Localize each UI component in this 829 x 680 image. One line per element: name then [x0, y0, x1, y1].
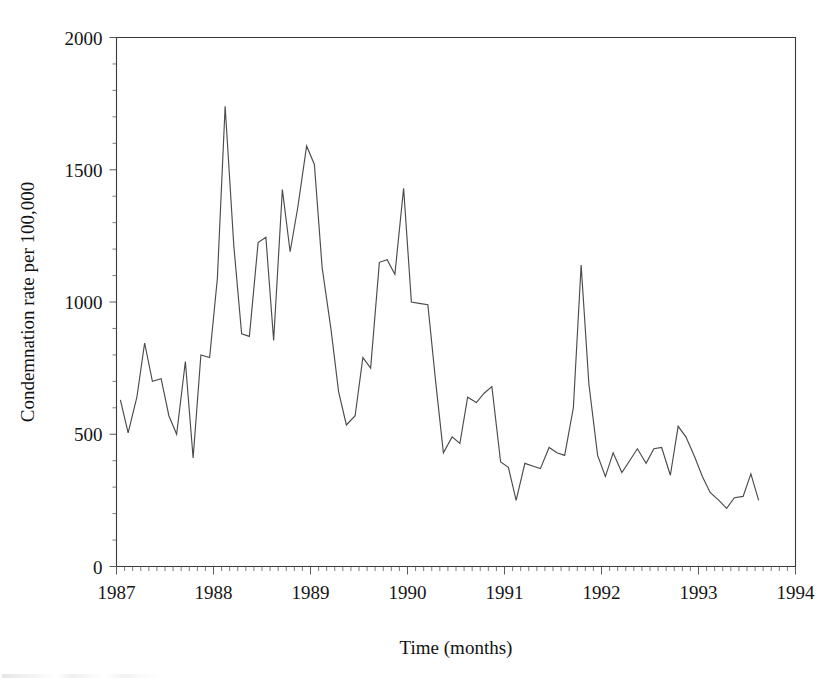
data-series-line: [120, 106, 758, 508]
plot-frame: [117, 38, 796, 567]
y-axis-title: Condemnation rate per 100,000: [17, 182, 38, 423]
y-tick-label: 0: [93, 557, 103, 578]
y-tick-label: 1000: [65, 292, 103, 313]
x-axis-ticks: [117, 567, 796, 575]
y-tick-label: 500: [74, 424, 103, 445]
y-tick-label: 2000: [65, 28, 103, 49]
line-chart: 0500100015002000 19871988198919901991199…: [0, 0, 829, 680]
x-axis-title: Time (months): [400, 637, 513, 659]
data-series-group: [120, 106, 758, 508]
figure-container: 0500100015002000 19871988198919901991199…: [0, 0, 829, 680]
x-tick-label: 1989: [292, 582, 330, 603]
x-axis-tick-labels: 19871988198919901991199219931994: [98, 582, 816, 603]
x-tick-label: 1992: [583, 582, 621, 603]
x-tick-label: 1991: [486, 582, 524, 603]
x-tick-label: 1993: [680, 582, 718, 603]
x-tick-label: 1990: [389, 582, 427, 603]
y-axis-tick-labels: 0500100015002000: [65, 28, 103, 578]
y-tick-label: 1500: [65, 160, 103, 181]
scan-artifact: [2, 674, 198, 678]
x-tick-label: 1994: [777, 582, 816, 603]
y-axis-ticks: [110, 38, 117, 567]
x-tick-label: 1987: [98, 582, 136, 603]
x-tick-label: 1988: [195, 582, 233, 603]
